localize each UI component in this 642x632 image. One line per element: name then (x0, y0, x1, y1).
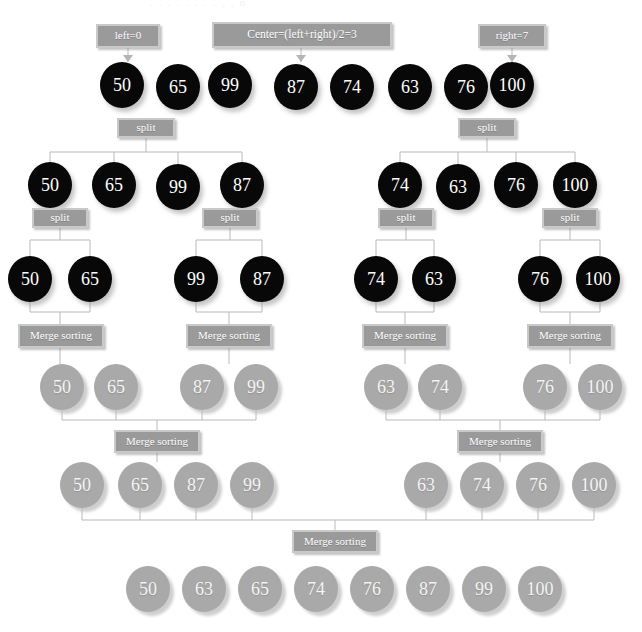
node-row6-5: 87 (406, 566, 450, 612)
node-row5-4: 63 (404, 462, 448, 508)
node-row2-4: 74 (378, 162, 422, 208)
node-row1-1: 65 (156, 64, 200, 110)
node-row5-7: 100 (572, 462, 616, 508)
node-row1-3: 87 (274, 64, 318, 110)
node-row5-3: 99 (230, 462, 274, 508)
arrow-down-icon-right (507, 55, 517, 62)
label-merge-sorting-d: Merge sorting (527, 324, 613, 348)
node-row6-4: 76 (350, 566, 394, 612)
node-row1-5: 63 (388, 64, 432, 110)
node-row2-6: 76 (494, 162, 538, 208)
label-split-level2-b: split (202, 208, 258, 228)
node-row1-4: 74 (330, 64, 374, 110)
label-split-level2-c: split (378, 208, 434, 228)
node-row6-3: 74 (294, 566, 338, 612)
node-row6-0: 50 (126, 566, 170, 612)
label-merge-sorting-final: Merge sorting (292, 530, 378, 553)
node-row2-7: 100 (553, 162, 597, 208)
node-row5-2: 87 (174, 462, 218, 508)
node-row4-7: 100 (578, 364, 622, 410)
node-row3-0: 50 (8, 256, 52, 302)
node-row3-1: 65 (68, 256, 112, 302)
label-merge-sorting-e: Merge sorting (114, 430, 200, 453)
node-row5-6: 76 (516, 462, 560, 508)
node-row1-7: 100 (490, 62, 534, 108)
label-merge-sorting-a: Merge sorting (18, 324, 104, 348)
node-row3-7: 100 (576, 256, 620, 302)
label-merge-sorting-f: Merge sorting (457, 430, 543, 453)
node-row6-7: 100 (518, 566, 562, 612)
node-row4-5: 74 (418, 364, 462, 410)
node-row2-2: 99 (156, 164, 200, 210)
node-row6-2: 65 (238, 566, 282, 612)
node-row4-4: 63 (364, 364, 408, 410)
label-left-pointer: left=0 (96, 24, 160, 48)
node-row4-0: 50 (40, 364, 84, 410)
node-row2-3: 87 (220, 162, 264, 208)
node-row5-0: 50 (60, 462, 104, 508)
node-row1-6: 76 (444, 64, 488, 110)
label-split-level1-left: split (117, 118, 175, 138)
node-row6-6: 99 (462, 566, 506, 612)
merge-sort-diagram: . . . . . . . . , , o (0, 0, 642, 632)
node-row3-3: 87 (240, 256, 284, 302)
node-row2-5: 63 (436, 164, 480, 210)
node-row5-1: 65 (118, 462, 162, 508)
label-split-level2-d: split (542, 208, 598, 228)
label-right-pointer: right=7 (478, 24, 546, 48)
node-row4-6: 76 (523, 364, 567, 410)
node-row2-1: 65 (92, 162, 136, 208)
top-text-fragment: . . . . . . . . , , o (150, 0, 510, 9)
label-split-level2-a: split (32, 208, 88, 228)
node-row6-1: 63 (182, 566, 226, 612)
node-row3-2: 99 (174, 256, 218, 302)
label-merge-sorting-c: Merge sorting (362, 324, 448, 348)
arrow-down-icon-center (296, 55, 306, 62)
node-row3-5: 63 (412, 256, 456, 302)
label-split-level1-right: split (458, 118, 516, 138)
label-center-pointer: Center=(left+right)/2=3 (212, 22, 392, 48)
node-row1-0: 50 (100, 62, 144, 108)
label-merge-sorting-b: Merge sorting (186, 324, 272, 348)
node-row3-6: 76 (518, 256, 562, 302)
node-row4-3: 99 (234, 364, 278, 410)
node-row5-5: 74 (460, 462, 504, 508)
node-row3-4: 74 (354, 256, 398, 302)
node-row2-0: 50 (28, 162, 72, 208)
node-row4-1: 65 (94, 364, 138, 410)
node-row4-2: 87 (180, 364, 224, 410)
arrow-down-icon-left (123, 55, 133, 62)
node-row1-2: 99 (208, 62, 252, 108)
